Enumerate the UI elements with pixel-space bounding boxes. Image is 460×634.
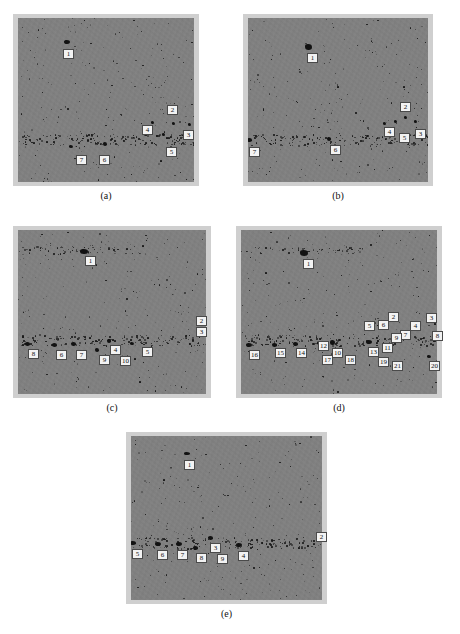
image-speck xyxy=(410,85,411,86)
image-speck-band-upper xyxy=(337,250,339,252)
marker-label[interactable]: 8 xyxy=(28,349,39,359)
marker-label[interactable]: 7 xyxy=(249,147,260,157)
marker-label[interactable]: 9 xyxy=(217,554,228,564)
marker-label[interactable]: 18 xyxy=(345,355,356,365)
image-speck-band xyxy=(257,136,258,137)
image-speck-band-upper xyxy=(352,253,354,255)
marker-label[interactable]: 14 xyxy=(296,348,307,358)
image-speck xyxy=(167,523,168,524)
image-speck-band xyxy=(189,538,190,539)
image-speck-band-upper xyxy=(298,247,299,248)
image-speck-band xyxy=(313,543,315,545)
image-speck-band xyxy=(294,345,296,347)
marker-label[interactable]: 6 xyxy=(99,155,110,165)
image-speck-band xyxy=(396,141,397,142)
marker-label[interactable]: 2 xyxy=(196,316,207,326)
marker-label[interactable]: 2 xyxy=(388,312,399,322)
marker-label[interactable]: 5 xyxy=(142,347,153,357)
marker-label[interactable]: 13 xyxy=(368,347,379,357)
image-speck xyxy=(164,243,165,244)
marker-label[interactable]: 1 xyxy=(303,259,314,269)
image-speck xyxy=(221,589,222,590)
image-speck xyxy=(286,535,287,536)
image-speck-band xyxy=(141,539,142,540)
marker-label[interactable]: 7 xyxy=(76,155,87,165)
marker-label[interactable]: 20 xyxy=(429,361,440,371)
marker-label[interactable]: 6 xyxy=(157,550,168,560)
image-speck-band xyxy=(171,544,173,546)
image-speck xyxy=(40,165,41,166)
marker-label[interactable]: 16 xyxy=(249,350,260,360)
marker-label[interactable]: 4 xyxy=(410,321,421,331)
marker-label[interactable]: 4 xyxy=(110,345,121,355)
marker-label[interactable]: 6 xyxy=(330,145,341,155)
image-speck xyxy=(163,341,164,342)
image-speck xyxy=(255,517,256,518)
marker-label[interactable]: 7 xyxy=(76,350,87,360)
image-speck xyxy=(195,351,196,352)
image-speck xyxy=(44,19,45,20)
marker-label[interactable]: 4 xyxy=(238,551,249,561)
detected-object-blob xyxy=(293,342,298,346)
image-speck xyxy=(107,80,108,81)
marker-label[interactable]: 10 xyxy=(120,356,131,366)
marker-label[interactable]: 8 xyxy=(432,331,443,341)
marker-label[interactable]: 1 xyxy=(184,460,195,470)
detected-object-blob xyxy=(272,343,277,347)
marker-label[interactable]: 12 xyxy=(318,341,329,351)
image-speck-band-upper xyxy=(360,248,361,249)
image-speck-band xyxy=(382,136,383,137)
marker-label[interactable]: 11 xyxy=(382,343,393,353)
marker-label[interactable]: 2 xyxy=(316,532,327,542)
image-speck xyxy=(387,170,388,171)
marker-label[interactable]: 8 xyxy=(196,553,207,563)
detected-object-blob xyxy=(305,44,312,50)
image-speck xyxy=(299,69,300,70)
marker-label[interactable]: 9 xyxy=(99,355,110,365)
marker-label[interactable]: 3 xyxy=(183,130,194,140)
marker-label[interactable]: 3 xyxy=(415,129,426,139)
marker-label[interactable]: 5 xyxy=(399,133,410,143)
image-speck-band xyxy=(410,135,411,136)
marker-label[interactable]: 21 xyxy=(392,361,403,371)
marker-label[interactable]: 6 xyxy=(56,350,67,360)
marker-label[interactable]: 9 xyxy=(391,333,402,343)
image-speck xyxy=(179,121,180,122)
image-speck-band xyxy=(316,336,317,337)
marker-label[interactable]: 6 xyxy=(378,320,389,330)
marker-label[interactable]: 10 xyxy=(332,348,343,358)
image-speck xyxy=(371,148,372,149)
image-speck xyxy=(337,121,338,122)
marker-label[interactable]: 2 xyxy=(167,105,178,115)
image-speck xyxy=(417,67,418,68)
marker-label[interactable]: 5 xyxy=(364,321,375,331)
image-speck-band xyxy=(186,335,187,336)
marker-label[interactable]: 15 xyxy=(275,348,286,358)
marker-label[interactable]: 19 xyxy=(378,357,389,367)
marker-label[interactable]: 4 xyxy=(142,125,153,135)
marker-label[interactable]: 2 xyxy=(400,102,411,112)
image-speck-band xyxy=(358,143,359,144)
marker-label[interactable]: 1 xyxy=(307,53,318,63)
marker-label[interactable]: 3 xyxy=(196,327,207,337)
image-speck-band xyxy=(413,144,415,146)
marker-label[interactable]: 7 xyxy=(177,550,188,560)
image-speck-band xyxy=(101,144,102,145)
marker-label[interactable]: 4 xyxy=(384,127,395,137)
image-speck-band xyxy=(156,135,158,137)
image-speck xyxy=(169,276,170,277)
marker-label[interactable]: 5 xyxy=(132,549,143,559)
image-speck xyxy=(242,332,243,333)
marker-label[interactable]: 3 xyxy=(210,543,221,553)
image-speck-band xyxy=(146,545,148,547)
image-speck xyxy=(94,83,95,84)
image-speck xyxy=(399,286,400,287)
marker-label[interactable]: 5 xyxy=(166,147,177,157)
marker-label[interactable]: 17 xyxy=(322,355,333,365)
marker-label[interactable]: 1 xyxy=(63,49,74,59)
marker-label[interactable]: 1 xyxy=(85,256,96,266)
image-speck xyxy=(289,543,290,544)
image-speck-band xyxy=(53,144,54,145)
image-speck xyxy=(409,371,410,372)
marker-label[interactable]: 3 xyxy=(426,313,437,323)
